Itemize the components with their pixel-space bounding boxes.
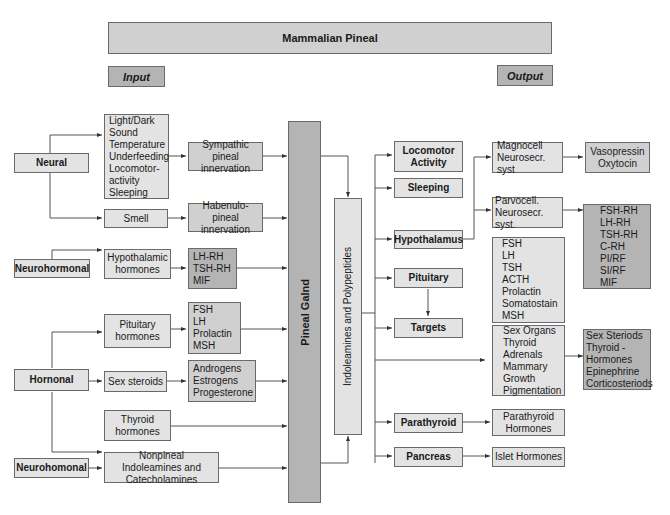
neural-box: Neural xyxy=(14,153,89,173)
organ: Growth xyxy=(503,373,535,385)
sympathetic-innervation-box: Sympathic pineal innervation xyxy=(188,142,263,171)
parvocell-line: Parvocell. xyxy=(495,195,539,207)
parathyroid-box: Parathyroid xyxy=(394,413,463,433)
sleeping-box: Sleeping xyxy=(394,178,463,198)
neural-stimuli-box: Light/Dark Sound Temperature Underfeedin… xyxy=(104,114,169,199)
hormone: FSH xyxy=(193,304,213,316)
locomotor-activity-box: Locomotor Activity xyxy=(394,141,463,172)
hormone: Progesterone xyxy=(193,387,253,399)
hormone: TSH xyxy=(502,262,522,274)
neurohomonal-box: Neurohomonal xyxy=(14,458,89,478)
parvocell-hormones-box: FSH-RH LH-RH TSH-RH C-RH PI/RF SI/RF MIF xyxy=(583,204,651,289)
hormone: LH xyxy=(193,316,206,328)
parvocell-box: Parvocell. Neurosecr. syst. xyxy=(492,197,563,228)
hormone: Sex Steriods xyxy=(586,330,643,342)
output-label: Output xyxy=(497,65,553,86)
target-organs-box: Sex Organs Thyroid Adrenals Mammary Grow… xyxy=(492,325,565,396)
organ: Sex Organs xyxy=(503,325,556,337)
pancreas-label: Pancreas xyxy=(406,451,450,463)
hormone: MSH xyxy=(502,310,524,322)
organ: Thyroid xyxy=(503,337,536,349)
pituitary-list-box: FSH LH Prolactin MSH xyxy=(188,302,241,354)
hypothalamic-hormones-box: Hypothalamic hormones xyxy=(104,249,171,279)
nonpineal-box: Nonpineal Indoleamines and Catecholamine… xyxy=(104,452,219,483)
hormone: Thyroid - xyxy=(586,342,625,354)
neurohormonal-label: Neurohormonal xyxy=(15,263,89,275)
hypothalamus-box: Hypothalamus xyxy=(394,230,463,249)
products-box: Indoleamines and Polypeptides xyxy=(334,198,362,435)
neurohormonal-box: Neurohormonal xyxy=(14,259,90,278)
targets-box: Targets xyxy=(394,318,463,338)
magnocell-box: Magnocell Neurosecr. syst xyxy=(492,142,563,173)
organ: Pigmentation xyxy=(503,385,561,397)
pituitary-label: Pituitary xyxy=(408,272,448,284)
parathyroid-label: Parathyroid xyxy=(401,417,457,429)
magnocell-line: Neurosecr. syst xyxy=(497,152,562,176)
pituitary-hormones-box: Pituitary hormones xyxy=(104,314,171,348)
smell-label: Smell xyxy=(123,213,148,225)
hormone: Estrogens xyxy=(193,375,238,387)
parvocell-line: Neurosecr. syst. xyxy=(495,207,562,231)
hormone: Somatostain xyxy=(502,298,558,310)
pituitary-box: Pituitary xyxy=(394,268,463,288)
hormone: C-RH xyxy=(600,241,625,253)
hormone: TSH-RH xyxy=(600,229,638,241)
releasing-hormones-box: LH-RH TSH-RH MIF xyxy=(188,248,237,289)
hormone: LH-RH xyxy=(600,217,631,229)
smell-box: Smell xyxy=(104,209,168,228)
hormone: Androgens xyxy=(193,363,241,375)
hormonal-label: Hornonal xyxy=(30,374,74,386)
hormone: LH-RH xyxy=(193,251,224,263)
neurohomonal-label: Neurohomonal xyxy=(16,462,87,474)
habenulo-innervation-box: Habenulo-pineal innervation xyxy=(188,203,263,232)
sex-steroids-label: Sex steroids xyxy=(108,376,163,388)
targets-label: Targets xyxy=(411,322,446,334)
target-hormones-box: Sex Steriods Thyroid - Hormones Epinephr… xyxy=(583,329,651,390)
thyroid-hormones-box: Thyroid hormones xyxy=(104,410,171,441)
hormone: MIF xyxy=(600,277,617,289)
pituitary-hormones-label: Pituitary hormones xyxy=(105,319,170,343)
parathyroid-hormones-box: Parathyroid Hormones xyxy=(492,409,565,436)
stimulus: activity xyxy=(109,175,140,187)
hormone: Hormones xyxy=(586,354,632,366)
title-banner: Mammalian Pineal xyxy=(108,22,552,54)
input-label-text: Input xyxy=(123,71,150,83)
hormone: Oxytocin xyxy=(598,158,637,170)
locomotor-label: Locomotor Activity xyxy=(399,145,458,169)
products-label: Indoleamines and Polypeptides xyxy=(342,247,354,386)
stimulus: Sound xyxy=(109,127,138,139)
pancreas-box: Pancreas xyxy=(394,447,463,467)
hormone: MSH xyxy=(193,340,215,352)
vasopressin-box: Vasopressin Oxytocin xyxy=(585,142,650,173)
stimulus: Sleeping xyxy=(109,187,148,199)
input-label: Input xyxy=(108,66,165,87)
output-label-text: Output xyxy=(507,70,543,82)
sleeping-label: Sleeping xyxy=(408,182,450,194)
stimulus: Underfeeding xyxy=(109,151,169,163)
stimulus: Light/Dark xyxy=(109,115,155,127)
hormone: FSH-RH xyxy=(600,205,638,217)
hormone: Prolactin xyxy=(502,286,541,298)
hormone: Vasopressin xyxy=(590,146,644,158)
hormone: LH xyxy=(502,250,515,262)
hormone: Prolactin xyxy=(193,328,232,340)
hormone: Corticosteriods xyxy=(586,378,653,390)
neural-label: Neural xyxy=(36,157,67,169)
hypothalamic-label: Hypothalamic hormones xyxy=(107,252,168,276)
thyroid-hormones-label: Thyroid hormones xyxy=(111,414,164,438)
hormone: PI/RF xyxy=(600,253,626,265)
islet-hormones-label: Islet Hormones xyxy=(495,451,562,463)
pineal-gland-box: Pineal Galnd xyxy=(288,121,321,503)
organ: Adrenals xyxy=(503,349,542,361)
hormonal-box: Hornonal xyxy=(14,369,89,391)
hormone: SI/RF xyxy=(600,265,626,277)
magnocell-line: Magnocell xyxy=(497,140,543,152)
pineal-gland-label: Pineal Galnd xyxy=(299,279,311,346)
hormone: MIF xyxy=(193,275,210,287)
sympathetic-label: Sympathic pineal innervation xyxy=(193,139,258,175)
nonpineal-label: Nonpineal Indoleamines and Catecholamine… xyxy=(109,450,214,486)
parathyroid-hormones-label: Parathyroid Hormones xyxy=(501,411,556,435)
sex-steroids-list-box: Androgens Estrogens Progesterone xyxy=(188,360,256,402)
pituitary-output-list-box: FSH LH TSH ACTH Prolactin Somatostain MS… xyxy=(492,237,565,323)
hypothalamus-label: Hypothalamus xyxy=(394,234,463,246)
